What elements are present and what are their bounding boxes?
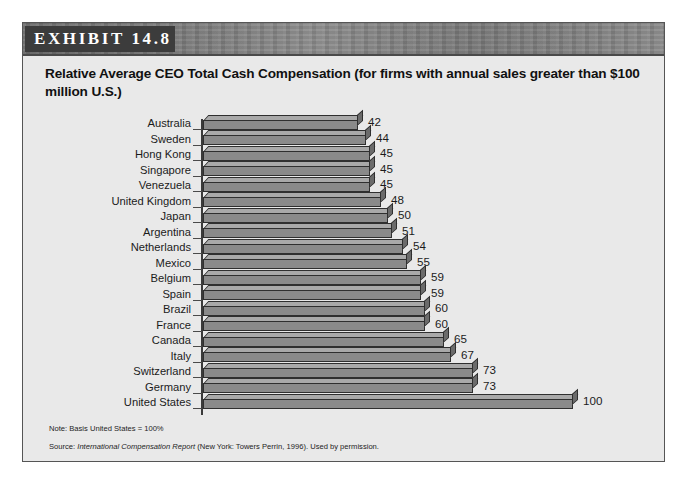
bar [203,135,366,145]
bar-category-label: Italy [23,350,191,363]
exhibit-container: EXHIBIT 14.8 Relative Average CEO Total … [22,22,665,462]
bar-category-label: Brazil [23,303,191,316]
bar-category-label: Hong Kong [23,148,191,161]
bar [203,166,370,176]
axis-tick [193,269,202,270]
bar-category-label: Mexico [23,257,191,270]
bar-category-label: Venezuela [23,179,191,192]
axis-tick [193,346,202,347]
axis-tick [193,284,202,285]
axis-tick [193,315,202,316]
bar-value-label: 44 [376,131,389,144]
bar [203,290,421,300]
axis-tick [193,191,202,192]
bar-value-label: 45 [380,177,393,190]
bar-row: United States100 [23,396,666,412]
bar-front-face [203,337,444,347]
bar-value-label: 45 [380,146,393,159]
axis-tick [193,160,202,161]
bar-category-label: Argentina [23,226,191,239]
exhibit-header-band: EXHIBIT 14.8 [23,23,664,56]
bar-category-label: Canada [23,334,191,347]
bar-value-label: 59 [431,286,444,299]
exhibit-panel: Relative Average CEO Total Cash Compensa… [23,56,664,461]
bar [203,352,451,362]
bar-value-label: 60 [435,317,448,330]
axis-tick [193,129,202,130]
bar [203,213,388,223]
bar-front-face [203,197,381,207]
bar-value-label: 67 [461,348,474,361]
exhibit-number-tag: EXHIBIT 14.8 [25,26,175,52]
bar-front-face [203,213,388,223]
bar-value-label: 73 [483,363,496,376]
bar-category-label: Sweden [23,133,191,146]
bar [203,197,381,207]
bar-value-label: 100 [583,394,602,407]
bar-category-label: Netherlands [23,241,191,254]
source-prefix: Source: [49,442,77,451]
bar-category-label: Singapore [23,164,191,177]
chart-title: Relative Average CEO Total Cash Compensa… [45,65,645,101]
axis-tick [193,238,202,239]
note-basis: Note: Basis United States = 100% [49,424,629,433]
bar-category-label: Belgium [23,272,191,285]
bar [203,182,370,192]
bar [203,259,407,269]
bar-front-face [203,244,403,254]
bar-front-face [203,306,425,316]
bar-front-face [203,228,392,238]
axis-tick [193,408,202,409]
axis-tick [193,176,202,177]
bar-value-label: 50 [398,208,411,221]
bar-category-label: Germany [23,381,191,394]
bar-category-label: Spain [23,288,191,301]
bar-category-label: France [23,319,191,332]
source-suffix: (New York: Towers Perrin, 1996). Used by… [195,442,379,451]
bar [203,383,473,393]
bar [203,244,403,254]
bar-front-face [203,383,473,393]
source-title: International Compensation Report [77,442,195,451]
bar-front-face [203,275,421,285]
axis-tick [193,300,202,301]
bar-category-label: Switzerland [23,365,191,378]
bar [203,228,392,238]
bar-end-cap [357,109,363,125]
bar-value-label: 51 [402,224,415,237]
bar-category-label: Australia [23,117,191,130]
axis-tick [193,253,202,254]
bar-category-label: United Kingdom [23,195,191,208]
bar-front-face [203,290,421,300]
bar [203,368,473,378]
bar-value-label: 60 [435,301,448,314]
axis-tick [193,222,202,223]
bar-front-face [203,166,370,176]
bar-front-face [203,368,473,378]
bar-category-label: Japan [23,210,191,223]
bar-value-label: 54 [413,239,426,252]
bar-value-label: 59 [431,270,444,283]
axis-tick [193,145,202,146]
bar-front-face [203,399,573,409]
footnotes: Note: Basis United States = 100% Source:… [49,424,629,451]
bar [203,399,573,409]
bar-chart-plot: Australia42Sweden44Hong Kong45Singapore4… [23,117,666,417]
bar [203,337,444,347]
axis-tick [193,362,202,363]
bar-front-face [203,259,407,269]
bar-category-label: United States [23,396,191,409]
bar-value-label: 45 [380,162,393,175]
bar [203,120,358,130]
bar [203,151,370,161]
bar [203,306,425,316]
bar-front-face [203,151,370,161]
bar [203,275,421,285]
bar-front-face [203,120,358,130]
bar-front-face [203,182,370,192]
bar [203,321,425,331]
bar-front-face [203,135,366,145]
bar-front-face [203,352,451,362]
axis-tick [193,207,202,208]
axis-tick [193,377,202,378]
